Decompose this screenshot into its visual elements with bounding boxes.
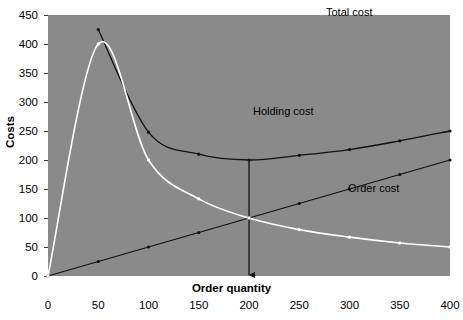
data-point xyxy=(448,245,451,248)
y-tick-label: 300 xyxy=(4,97,38,107)
data-point xyxy=(197,197,200,200)
data-point xyxy=(398,173,401,176)
x-tick-label: 350 xyxy=(380,300,420,311)
y-tick-label: 150 xyxy=(4,184,38,194)
data-point xyxy=(46,274,49,277)
data-point xyxy=(147,131,150,134)
y-tick-label: 350 xyxy=(4,68,38,78)
data-point xyxy=(448,129,451,132)
data-point xyxy=(348,235,351,238)
y-tick-label: 0 xyxy=(4,271,38,281)
data-point xyxy=(247,158,250,161)
data-point xyxy=(298,202,301,205)
y-tick-label: 200 xyxy=(4,155,38,165)
annotation-total-cost: Total cost xyxy=(326,6,372,18)
series-line-total-cost xyxy=(98,30,450,161)
annotation-holding-cost: Holding cost xyxy=(253,105,314,117)
chart-figure: Costs 050100150200250300350400450 Total … xyxy=(0,0,463,320)
y-tick-label: 50 xyxy=(4,242,38,252)
data-point xyxy=(147,158,150,161)
x-tick-label: 300 xyxy=(330,300,370,311)
series-canvas xyxy=(48,15,450,276)
y-tick-label: 100 xyxy=(4,213,38,223)
data-point xyxy=(247,216,250,219)
y-tick-label: 250 xyxy=(4,126,38,136)
data-point xyxy=(398,241,401,244)
x-tick-label: 250 xyxy=(279,300,319,311)
data-point xyxy=(448,158,451,161)
data-point xyxy=(147,245,150,248)
x-tick-label: 0 xyxy=(28,300,68,311)
x-tick-label: 200 xyxy=(229,300,269,311)
x-tick-label: 400 xyxy=(430,300,463,311)
data-point xyxy=(398,139,401,142)
data-point xyxy=(348,148,351,151)
data-point xyxy=(97,42,100,45)
y-tick-label: 400 xyxy=(4,39,38,49)
x-tick-label: 150 xyxy=(179,300,219,311)
data-point xyxy=(97,260,100,263)
data-point xyxy=(298,154,301,157)
data-point xyxy=(97,28,100,31)
y-tick-label: 450 xyxy=(4,10,38,20)
x-tick-label: 50 xyxy=(78,300,118,311)
x-axis-title: Order quantity xyxy=(0,282,463,294)
data-point xyxy=(197,231,200,234)
annotation-order-cost: Order cost xyxy=(348,182,399,194)
data-point xyxy=(197,153,200,156)
x-tick-label: 100 xyxy=(129,300,169,311)
plot-area: Total cost Holding cost Order cost xyxy=(48,15,450,276)
data-point xyxy=(298,228,301,231)
